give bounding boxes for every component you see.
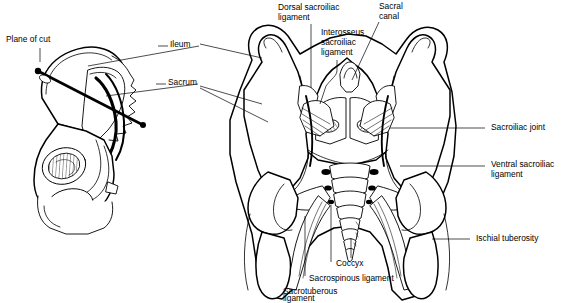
anatomy-figure: Plane of cut Ileum Sacrum Dorsal sacroil…	[0, 0, 580, 303]
label-ventral-sacroiliac-ligament-line2: ligament	[491, 169, 523, 179]
ischial-tuberosity-right	[403, 232, 438, 299]
sacral-foramen-dark-l2	[324, 185, 332, 190]
label-interosseus-sacroiliac-ligament-line2: sacroiliac	[321, 37, 356, 47]
sacral-foramen-dark-l1	[321, 169, 330, 175]
label-ileum: Ileum	[170, 39, 191, 49]
label-sacrospinous-ligament: Sacrospinous ligament	[309, 273, 394, 283]
label-ischial-tuberosity: Ischial tuberosity	[476, 233, 539, 243]
sacral-foramen-dark-r2	[368, 185, 376, 190]
plane-of-cut-marker-start	[35, 68, 41, 74]
label-coccyx: Coccyx	[336, 258, 364, 268]
label-interosseus-sacroiliac-ligament-line3: ligament	[321, 47, 353, 57]
label-interosseus-sacroiliac-ligament-line1: Interosseus	[321, 27, 364, 37]
sacral-foramen-dark-r1	[369, 169, 378, 175]
plane-of-cut-marker-end	[140, 122, 146, 128]
label-sacral-canal-line2: canal	[379, 11, 399, 21]
figure-canvas: Plane of cut Ileum Sacrum Dorsal sacroil…	[0, 0, 580, 303]
label-sacrotuberous-ligament-line2: ligament	[283, 293, 315, 303]
label-dorsal-sacroiliac-ligament-line2: ligament	[278, 12, 310, 22]
label-sacral-canal-line1: Sacral	[379, 1, 403, 11]
label-ventral-sacroiliac-ligament-line1: Ventral sacroiliac	[491, 159, 554, 169]
label-sacroiliac-joint: Sacroiliac joint	[491, 122, 546, 132]
label-plane-of-cut: Plane of cut	[6, 34, 51, 44]
label-sacrum: Sacrum	[168, 77, 197, 87]
label-dorsal-sacroiliac-ligament-line1: Dorsal sacroiliac	[278, 2, 339, 12]
